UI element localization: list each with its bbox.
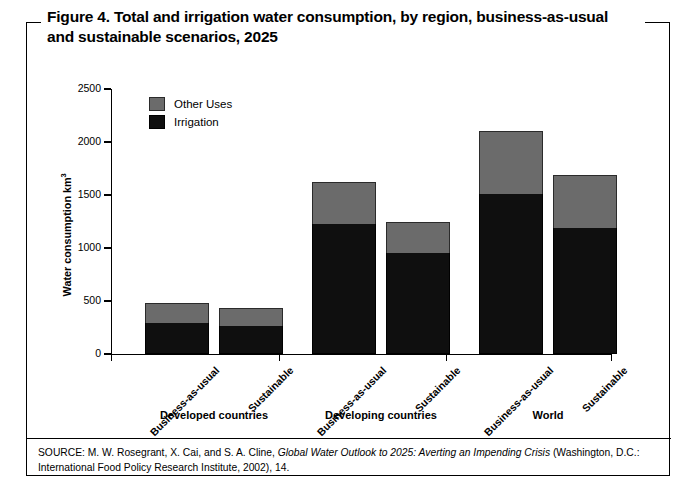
- y-axis-tick-label: 2500: [61, 83, 101, 94]
- x-axis-tick: [111, 354, 112, 361]
- square-swatch-icon: [149, 115, 165, 129]
- y-axis-tick-label: 1500: [61, 189, 101, 200]
- x-axis-tick-label: Business-as-usual: [476, 364, 555, 443]
- x-axis-tick-label: Business-as-usual: [142, 364, 221, 443]
- bar-segment-irrigation: [312, 224, 376, 354]
- square-swatch-icon: [149, 97, 165, 111]
- legend-label-irrigation: Irrigation: [174, 116, 219, 128]
- y-axis-tick: [104, 194, 111, 195]
- bar-segment-other-uses: [312, 182, 376, 223]
- x-axis-tick-label: Sustainable: [216, 364, 295, 443]
- legend-item-irrigation: Irrigation: [149, 113, 232, 131]
- y-axis-line: [111, 89, 112, 354]
- stacked-bar: [219, 308, 283, 354]
- stacked-bar: [553, 175, 617, 354]
- x-axis-tick: [611, 354, 612, 361]
- x-axis-tick-label: Business-as-usual: [309, 364, 388, 443]
- source-divider: [27, 438, 671, 439]
- legend-label-other-uses: Other Uses: [174, 98, 232, 110]
- source-italic-title: Global Water Outlook to 2025: Averting a…: [278, 447, 550, 458]
- y-axis-tick-label: 0: [61, 348, 101, 359]
- bar-segment-irrigation: [145, 323, 209, 354]
- figure-box: Figure 4. Total and irrigation water con…: [26, 22, 670, 476]
- y-axis-tick-label: 1000: [61, 242, 101, 253]
- x-axis-group-label: Developed countries: [124, 409, 304, 421]
- bar-segment-other-uses: [553, 175, 617, 229]
- stacked-bar: [312, 182, 376, 354]
- source-note: SOURCE: M. W. Rosegrant, X. Cai, and S. …: [38, 446, 658, 475]
- y-axis-tick-label: 2000: [61, 136, 101, 147]
- y-axis-tick: [104, 247, 111, 248]
- chart-legend: Other Uses Irrigation: [149, 95, 232, 131]
- source-prefix: SOURCE: M. W. Rosegrant, X. Cai, and S. …: [38, 447, 278, 458]
- stacked-bar: [479, 131, 543, 354]
- bar-segment-other-uses: [219, 308, 283, 326]
- legend-item-other-uses: Other Uses: [149, 95, 232, 113]
- stacked-bar: [386, 222, 450, 355]
- y-axis-tick: [104, 353, 111, 354]
- y-axis-tick-label: 500: [61, 295, 101, 306]
- chart-plot-area: Water consumption km3 050010001500200025…: [27, 23, 671, 477]
- bar-segment-irrigation: [479, 194, 543, 354]
- bar-segment-irrigation: [553, 228, 617, 354]
- x-axis-tick-label: Sustainable: [550, 364, 629, 443]
- y-axis-tick: [104, 141, 111, 142]
- bar-segment-irrigation: [386, 253, 450, 354]
- x-axis-tick: [446, 354, 447, 361]
- bar-segment-other-uses: [145, 303, 209, 323]
- stacked-bar: [145, 303, 209, 354]
- y-axis-tick: [104, 88, 111, 89]
- x-axis-group-label: World: [458, 409, 638, 421]
- bar-segment-other-uses: [386, 222, 450, 254]
- y-axis-tick: [104, 300, 111, 301]
- x-axis-group-label: Developing countries: [291, 409, 471, 421]
- bar-segment-irrigation: [219, 326, 283, 354]
- x-axis-tick: [279, 354, 280, 361]
- x-axis-tick-label: Sustainable: [383, 364, 462, 443]
- bar-segment-other-uses: [479, 131, 543, 194]
